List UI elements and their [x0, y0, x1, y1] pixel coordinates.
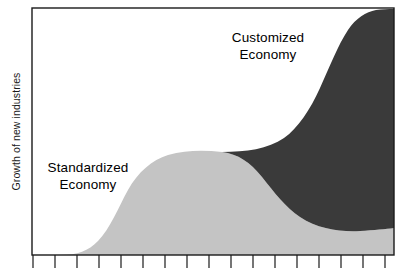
standardized-label-line1: Standardized: [26, 160, 150, 177]
series-annotation-standardized: Standardized Economy: [26, 160, 150, 194]
customized-label-line1: Customized: [212, 30, 324, 47]
standardized-label-line2: Economy: [26, 177, 150, 194]
x-axis-ticks: [33, 255, 385, 268]
y-axis-title: Growth of new industries: [6, 8, 26, 255]
customized-label-line2: Economy: [212, 47, 324, 64]
chart-figure: Growth of new industries Customized Econ…: [0, 0, 404, 272]
area-chart-canvas: [0, 0, 404, 272]
series-annotation-customized: Customized Economy: [212, 30, 324, 64]
